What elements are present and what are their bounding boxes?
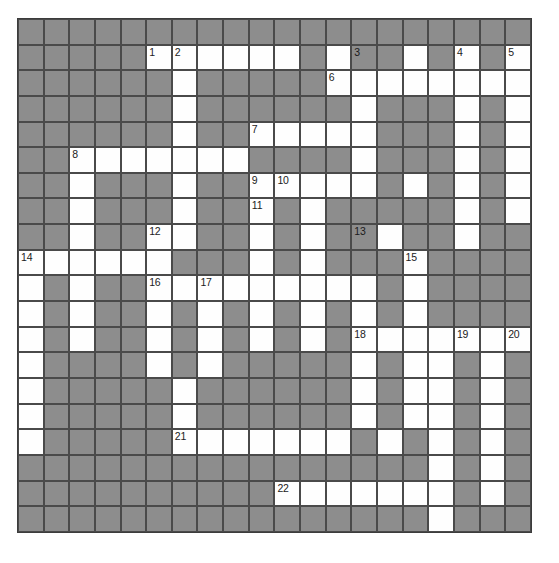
- crossword-cell-open[interactable]: [18, 327, 44, 353]
- crossword-cell-open[interactable]: [69, 198, 95, 224]
- crossword-cell-open[interactable]: [95, 250, 121, 276]
- crossword-cell-open[interactable]: 10: [274, 173, 300, 199]
- crossword-cell-open[interactable]: [377, 70, 403, 96]
- crossword-cell-open[interactable]: [223, 275, 249, 301]
- crossword-cell-open[interactable]: [274, 275, 300, 301]
- crossword-cell-open[interactable]: [18, 301, 44, 327]
- crossword-cell-open[interactable]: 18: [351, 327, 377, 353]
- crossword-cell-open[interactable]: [274, 429, 300, 455]
- crossword-cell-open[interactable]: [95, 147, 121, 173]
- crossword-cell-open[interactable]: 8: [69, 147, 95, 173]
- crossword-cell-open[interactable]: [403, 327, 429, 353]
- crossword-cell-open[interactable]: [505, 147, 531, 173]
- crossword-cell-open[interactable]: [121, 250, 147, 276]
- crossword-cell-open[interactable]: [480, 70, 506, 96]
- crossword-cell-open[interactable]: [146, 327, 172, 353]
- crossword-cell-open[interactable]: [223, 429, 249, 455]
- crossword-cell-open[interactable]: [351, 378, 377, 404]
- crossword-cell-open[interactable]: [403, 275, 429, 301]
- crossword-cell-open[interactable]: [403, 378, 429, 404]
- crossword-cell-open[interactable]: [146, 352, 172, 378]
- crossword-cell-open[interactable]: [505, 173, 531, 199]
- crossword-cell-open[interactable]: [326, 275, 352, 301]
- crossword-cell-open[interactable]: [351, 275, 377, 301]
- crossword-cell-open[interactable]: [428, 481, 454, 507]
- crossword-cell-open[interactable]: 15: [403, 250, 429, 276]
- crossword-cell-open[interactable]: 4: [454, 45, 480, 71]
- crossword-cell-open[interactable]: [146, 147, 172, 173]
- crossword-cell-open[interactable]: [403, 70, 429, 96]
- crossword-cell-open[interactable]: [69, 327, 95, 353]
- crossword-cell-open[interactable]: [351, 70, 377, 96]
- crossword-cell-open[interactable]: [403, 301, 429, 327]
- crossword-cell-open[interactable]: [249, 275, 275, 301]
- crossword-cell-open[interactable]: [249, 429, 275, 455]
- crossword-cell-open[interactable]: [300, 250, 326, 276]
- crossword-cell-open[interactable]: [249, 301, 275, 327]
- crossword-cell-open[interactable]: [197, 147, 223, 173]
- crossword-cell-open[interactable]: 12: [146, 224, 172, 250]
- crossword-cell-open[interactable]: [351, 122, 377, 148]
- crossword-cell-open[interactable]: [505, 70, 531, 96]
- crossword-cell-open[interactable]: [351, 481, 377, 507]
- crossword-cell-open[interactable]: 17: [197, 275, 223, 301]
- crossword-cell-open[interactable]: [172, 147, 198, 173]
- crossword-cell-open[interactable]: [223, 45, 249, 71]
- crossword-cell-open[interactable]: [197, 327, 223, 353]
- crossword-cell-open[interactable]: [326, 45, 352, 71]
- crossword-cell-open[interactable]: [300, 301, 326, 327]
- crossword-cell-open[interactable]: [18, 378, 44, 404]
- crossword-cell-open[interactable]: [403, 404, 429, 430]
- crossword-cell-open[interactable]: [377, 481, 403, 507]
- crossword-cell-open[interactable]: [300, 327, 326, 353]
- crossword-cell-open[interactable]: [351, 173, 377, 199]
- crossword-cell-open[interactable]: [428, 455, 454, 481]
- crossword-cell-open[interactable]: [326, 481, 352, 507]
- crossword-cell-open[interactable]: [300, 224, 326, 250]
- crossword-cell-open[interactable]: [428, 506, 454, 532]
- crossword-cell-open[interactable]: [300, 122, 326, 148]
- crossword-cell-open[interactable]: [249, 250, 275, 276]
- crossword-cell-open[interactable]: [480, 327, 506, 353]
- crossword-cell-open[interactable]: [326, 429, 352, 455]
- crossword-cell-open[interactable]: [300, 481, 326, 507]
- crossword-cell-open[interactable]: 5: [505, 45, 531, 71]
- crossword-cell-open[interactable]: [172, 70, 198, 96]
- crossword-cell-open[interactable]: [274, 122, 300, 148]
- crossword-cell-open[interactable]: 14: [18, 250, 44, 276]
- crossword-cell-open[interactable]: [454, 70, 480, 96]
- crossword-cell-open[interactable]: 22: [274, 481, 300, 507]
- crossword-cell-open[interactable]: [480, 378, 506, 404]
- crossword-cell-open[interactable]: [197, 301, 223, 327]
- crossword-cell-open[interactable]: [197, 429, 223, 455]
- crossword-cell-open[interactable]: [172, 122, 198, 148]
- crossword-cell-open[interactable]: [69, 250, 95, 276]
- crossword-cell-open[interactable]: [300, 429, 326, 455]
- crossword-cell-open[interactable]: [454, 224, 480, 250]
- crossword-cell-open[interactable]: [505, 122, 531, 148]
- crossword-cell-open[interactable]: [172, 378, 198, 404]
- crossword-cell-open[interactable]: [351, 96, 377, 122]
- crossword-cell-open[interactable]: [454, 173, 480, 199]
- crossword-cell-open[interactable]: [69, 275, 95, 301]
- crossword-cell-open[interactable]: [18, 352, 44, 378]
- crossword-cell-open[interactable]: [249, 224, 275, 250]
- crossword-cell-open[interactable]: [351, 404, 377, 430]
- crossword-cell-open[interactable]: [274, 45, 300, 71]
- crossword-cell-open[interactable]: [300, 198, 326, 224]
- crossword-cell-open[interactable]: [403, 352, 429, 378]
- crossword-cell-open[interactable]: [44, 250, 70, 276]
- crossword-cell-open[interactable]: [377, 429, 403, 455]
- crossword-cell-open[interactable]: [505, 96, 531, 122]
- crossword-cell-open[interactable]: [505, 198, 531, 224]
- crossword-cell-open[interactable]: [403, 173, 429, 199]
- crossword-cell-open[interactable]: [326, 122, 352, 148]
- crossword-cell-open[interactable]: [428, 327, 454, 353]
- crossword-cell-open[interactable]: 6: [326, 70, 352, 96]
- crossword-cell-open[interactable]: [249, 45, 275, 71]
- crossword-cell-open[interactable]: 20: [505, 327, 531, 353]
- crossword-cell-open[interactable]: 1: [146, 45, 172, 71]
- crossword-cell-open[interactable]: [146, 250, 172, 276]
- crossword-cell-open[interactable]: [172, 404, 198, 430]
- crossword-cell-open[interactable]: [121, 147, 147, 173]
